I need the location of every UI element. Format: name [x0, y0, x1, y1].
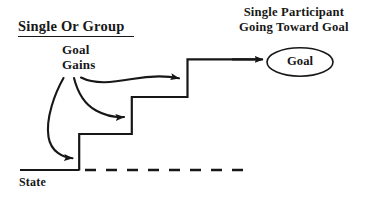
heading-line-2: Going Toward Goal — [239, 20, 349, 34]
label-state: State — [19, 176, 46, 188]
label-goal-gains-line-1: Goal — [62, 42, 90, 57]
heading-single-participant-going-toward-goal: Single ParticipantGoing Toward Goal — [239, 5, 349, 35]
goal-node-label: Goal — [267, 54, 333, 69]
goal-gain-arrow-1 — [48, 78, 73, 158]
title-underline — [18, 36, 134, 37]
goal-gain-arrow-3 — [81, 76, 179, 82]
label-goal-gains: GoalGains — [62, 43, 96, 72]
heading-line-1: Single Participant — [244, 5, 345, 19]
label-goal-gains-line-2: Gains — [62, 57, 96, 72]
diagram-canvas: Single Or Group Single ParticipantGoing … — [0, 0, 379, 199]
goal-gain-arrow-2 — [74, 78, 124, 117]
title-single-or-group: Single Or Group — [18, 19, 124, 34]
